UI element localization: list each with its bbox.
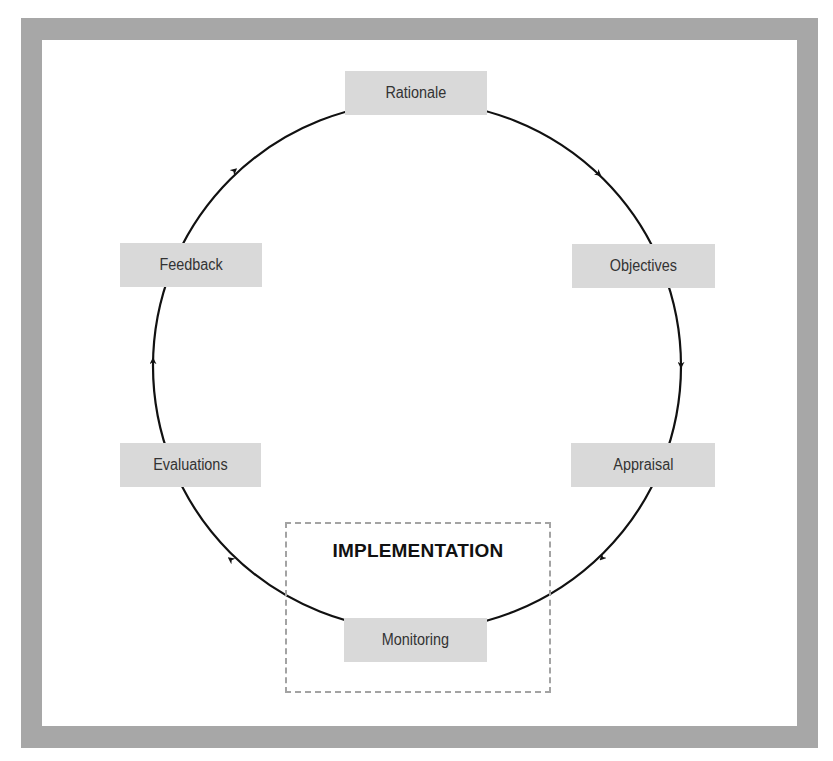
stage-feedback: Feedback: [120, 243, 262, 287]
stage-label: Rationale: [386, 84, 447, 102]
stage-label: Monitoring: [382, 631, 449, 649]
stage-monitoring: Monitoring: [344, 618, 487, 662]
stage-appraisal: Appraisal: [571, 443, 715, 487]
stage-evaluations: Evaluations: [120, 443, 261, 487]
stage-objectives: Objectives: [572, 244, 715, 288]
stage-label: Evaluations: [153, 456, 227, 474]
implementation-group-label: IMPLEMENTATION: [285, 540, 551, 562]
stage-label: Appraisal: [613, 456, 673, 474]
stage-rationale: Rationale: [345, 71, 487, 115]
stage-label: Feedback: [159, 256, 222, 274]
stage-label: Objectives: [610, 257, 677, 275]
